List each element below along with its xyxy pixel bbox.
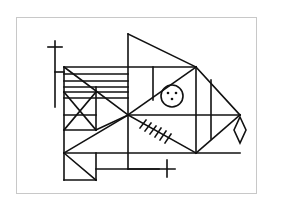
eye-circle — [161, 85, 183, 107]
diamond-pendant — [234, 117, 246, 143]
geometric-figure — [0, 0, 284, 212]
bottom-cross — [128, 160, 175, 177]
top-left-cross — [48, 41, 64, 107]
left-striped-box — [64, 67, 240, 180]
center-structure — [64, 67, 240, 153]
